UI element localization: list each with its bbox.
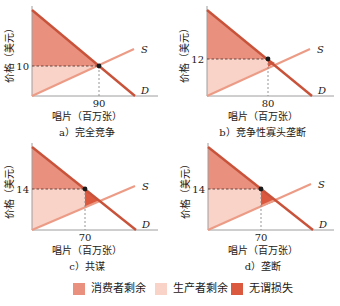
consumer-surplus-swatch-icon [73, 283, 85, 295]
legend-item-consumer-surplus: 消费者剩余 [73, 280, 146, 298]
panel-caption: d）垄断 [245, 260, 281, 272]
price-tick-label: 14 [192, 184, 205, 195]
panel-caption: a）完全竞争 [59, 126, 115, 138]
demand-label: D [317, 85, 326, 96]
legend-label: 消费者剩余 [91, 280, 146, 298]
x-axis-title: 唱片（百万张） [228, 110, 298, 122]
legend: 消费者剩余 生产者剩余 无谓损失 [0, 280, 340, 298]
supply-label: S [142, 181, 149, 192]
y-axis-title: 价格（美元） [3, 23, 15, 83]
market-outcome-point [266, 57, 271, 62]
supply-label: S [318, 179, 325, 190]
panel-caption: b）竞争性寡头垄断 [219, 126, 305, 138]
chart-panel-d: SD1470价格（美元）唱片（百万张）d）垄断 [179, 143, 334, 272]
y-axis-title: 价格（美元） [179, 159, 191, 219]
quantity-tick-label: 90 [93, 98, 106, 109]
supply-label: S [141, 44, 148, 55]
quantity-tick-label: 70 [255, 232, 268, 243]
producer-surplus-swatch-icon [155, 283, 167, 295]
x-axis-title: 唱片（百万张） [52, 244, 122, 256]
quantity-tick-label: 70 [79, 232, 92, 243]
supply-label: S [317, 44, 324, 55]
market-outcome-point [83, 187, 88, 192]
legend-label: 无谓损失 [249, 280, 293, 298]
producer-surplus-area [207, 59, 268, 96]
y-axis-title: 价格（美元） [3, 159, 15, 219]
market-outcome-point [259, 187, 264, 192]
chart-panel-b: SD1280价格（美元）唱片（百万张）b）竞争性寡头垄断 [178, 6, 334, 138]
legend-label: 生产者剩余 [173, 280, 228, 298]
legend-item-producer-surplus: 生产者剩余 [155, 280, 228, 298]
market-outcome-point [97, 64, 102, 69]
producer-surplus-area [32, 189, 85, 230]
price-tick-label: 10 [16, 61, 29, 72]
x-axis-title: 唱片（百万张） [52, 110, 122, 122]
panel-caption: c）共谋 [69, 261, 105, 272]
quantity-tick-label: 80 [262, 98, 275, 109]
deadweight-loss-swatch-icon [231, 283, 243, 295]
chart-panel-c: SD1470价格（美元）唱片（百万张）c）共谋 [3, 143, 158, 272]
price-tick-label: 12 [191, 54, 204, 65]
demand-label: D [318, 219, 327, 230]
demand-label: D [140, 85, 149, 96]
y-axis-title: 价格（美元） [178, 23, 190, 83]
figure-canvas: SD1090价格（美元）唱片（百万张）a）完全竞争 SD1280价格（美元）唱片… [0, 0, 340, 306]
price-tick-label: 14 [16, 184, 29, 195]
x-axis-title: 唱片（百万张） [228, 244, 298, 256]
chart-panel-a: SD1090价格（美元）唱片（百万张）a）完全竞争 [3, 6, 158, 138]
demand-label: D [141, 219, 150, 230]
legend-item-deadweight-loss: 无谓损失 [231, 280, 293, 298]
